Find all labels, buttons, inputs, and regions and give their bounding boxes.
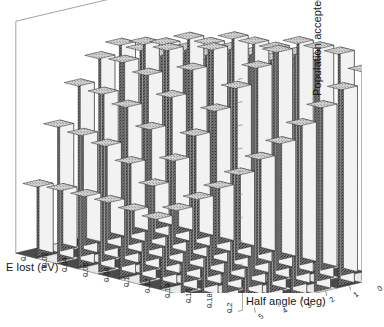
z-axis-title: Population accepted (312, 0, 323, 96)
y-tick-label: 0 (376, 284, 384, 292)
frame-line (16, 0, 159, 21)
x-tick-label: 0.16 (185, 288, 193, 303)
x-tick-label: 0.2 (226, 303, 234, 313)
x-axis-title: E lost (eV) (6, 262, 58, 273)
z-axis-tick (238, 310, 243, 311)
y-axis-title: Half angle (deg) (246, 296, 326, 307)
x-tick-label: 0.14 (164, 283, 172, 298)
x-tick-label: 0.12 (144, 278, 152, 293)
x-tick-label: 0.08 (103, 268, 111, 283)
y-axis-tick (254, 308, 255, 313)
x-tick-label: 0.02 (41, 252, 49, 267)
y-axis-tick (350, 285, 351, 290)
x-tick-label: 0.1 (123, 277, 131, 287)
x-tick-label: 0 (20, 257, 28, 261)
x-tick-label: 0.04 (61, 257, 69, 272)
x-tick-label: 0.06 (82, 262, 90, 277)
bar (23, 180, 53, 257)
x-tick-label: 0.18 (206, 294, 214, 309)
